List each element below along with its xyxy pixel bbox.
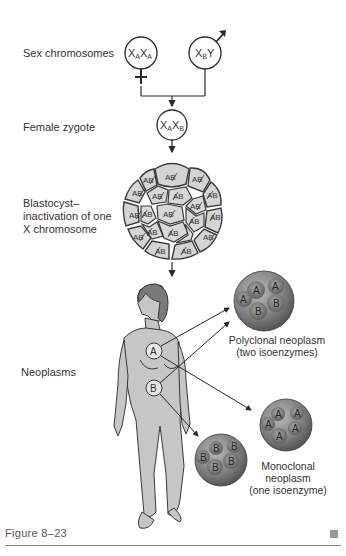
monoclonal-line2: neoplasm [243,472,333,484]
polyclonal-caption: Polyclonal neoplasm (two isoenzymes) [221,334,333,358]
polyclonal-neoplasm: A A A B B [234,271,294,331]
monoclonal-line3: (one isoenzyme) [243,484,333,496]
svg-text:AB: AB [147,228,158,237]
svg-text:B: B [228,456,235,467]
svg-text:B: B [200,452,207,463]
svg-text:B: B [273,298,280,309]
svg-text:A: A [294,408,301,419]
svg-text:B: B [212,462,219,473]
svg-text:A: A [150,346,157,357]
svg-text:AB: AB [142,210,153,219]
svg-text:AB: AB [173,192,184,201]
monoclonal-neoplasm-a: A A A A A [260,399,312,451]
female-parent-circle: XAXA [125,37,157,84]
parent-merge-connector [141,69,205,106]
svg-text:A: A [253,285,260,296]
svg-text:B: B [213,443,220,454]
male-symbol-icon [216,30,226,42]
polyclonal-subtitle: (two isoenzymes) [221,346,333,358]
svg-text:A: A [272,281,279,292]
svg-text:A: A [275,409,282,420]
svg-text:AB: AB [189,217,200,226]
svg-text:AB: AB [168,229,179,238]
svg-text:A: A [292,423,299,434]
svg-text:AB: AB [210,213,221,222]
monoclonal-neoplasm-b: B B B B B [195,434,247,486]
svg-text:A: A [265,419,272,430]
svg-text:B: B [150,383,157,394]
body-site-a: A [146,343,162,359]
svg-text:AB: AB [181,247,192,256]
male-parent-circle: XBY [189,30,226,69]
figure-label: Figure 8–23 [5,527,67,539]
svg-text:A: A [276,431,283,442]
svg-text:AB: AB [155,247,166,256]
zygote-circle: XAXB [157,110,187,140]
female-body-figure [114,284,190,528]
female-symbol-icon [135,69,147,84]
svg-text:B: B [255,306,262,317]
blastocyst: AB AB AB AB AB AB AB AB AB AB AB AB AB A… [123,164,222,260]
svg-text:B: B [231,441,238,452]
body-site-b: B [146,380,162,396]
svg-text:A: A [240,294,247,305]
figure-rule-divider [5,545,341,546]
monoclonal-caption: Monoclonal neoplasm (one isoenzyme) [243,460,333,496]
end-marker-square-icon [330,530,338,538]
polyclonal-title: Polyclonal neoplasm [221,334,333,346]
monoclonal-line1: Monoclonal [243,460,333,472]
